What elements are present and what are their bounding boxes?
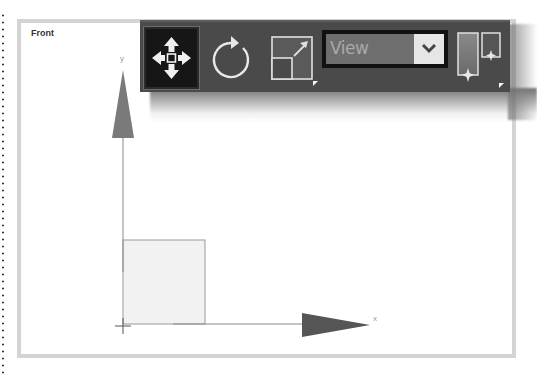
scene-object-square[interactable] [123,240,205,324]
view-dropdown-value: View [330,38,368,58]
toolbar-shadow [150,88,537,122]
move-arrows-icon [146,29,197,87]
layout-panels-icon [454,30,508,90]
scale-tool-button[interactable] [260,32,320,88]
x-axis-label: x [373,314,377,323]
corner-flag-icon [313,81,318,86]
toolbar-shadow-right [508,24,537,120]
y-axis-arrow-icon[interactable] [112,70,134,138]
view-dropdown-field[interactable]: View [326,34,444,64]
rotate-icon [206,30,256,86]
chevron-down-icon [414,34,444,64]
transform-toolbar: View [140,20,510,92]
y-axis-label: y [120,54,124,63]
scale-icon [260,32,320,88]
view-dropdown[interactable]: View [322,30,448,68]
view-dropdown-toggle[interactable] [414,34,444,64]
move-tool-button[interactable] [144,27,199,89]
x-axis-arrow-icon[interactable] [302,313,370,337]
layout-tool-button[interactable] [454,30,508,90]
rotate-tool-button[interactable] [206,30,256,86]
